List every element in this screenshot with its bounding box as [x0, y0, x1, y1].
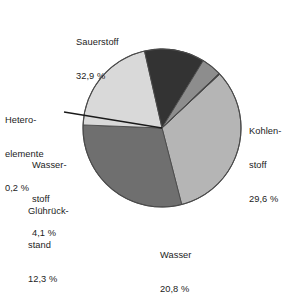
pie-label-wasser: Wasser 20,8 %	[160, 227, 191, 298]
pie-label-wasserstoff-value: 4,1 %	[32, 228, 67, 239]
pie-label-wasser-value: 20,8 %	[160, 284, 191, 295]
pie-label-sauerstoff-name: Sauerstoff	[76, 37, 119, 48]
pie-label-heteroelemente-value: 0,2 %	[5, 183, 44, 194]
pie-label-kohlenstoff-value: 29,6 %	[249, 194, 281, 205]
pie-label-sauerstoff: Sauerstoff 32,9 %	[76, 14, 119, 105]
pie-label-wasser-name: Wasser	[160, 250, 191, 261]
pie-label-kohlenstoff-line1: Kohlen-	[249, 126, 281, 137]
pie-label-heteroelemente-line1: Hetero-	[5, 115, 44, 126]
pie-label-gluehrueckstand-value: 12,3 %	[28, 274, 69, 285]
pie-label-heteroelemente: Hetero- elemente 0,2 %	[5, 92, 44, 217]
pie-label-kohlenstoff: Kohlen- stoff 29,6 %	[249, 103, 281, 228]
pie-label-heteroelemente-line2: elemente	[5, 149, 44, 160]
pie-label-sauerstoff-value: 32,9 %	[76, 71, 119, 82]
pie-label-kohlenstoff-line2: stoff	[249, 160, 281, 171]
